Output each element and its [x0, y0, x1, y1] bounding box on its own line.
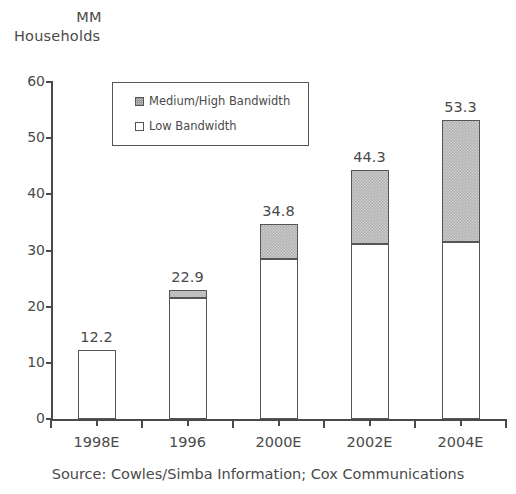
bar-segment-medium-high-bandwidth[interactable]: [351, 170, 389, 244]
bar-2000E[interactable]: [260, 224, 298, 419]
x-axis-major-tick: [323, 419, 325, 428]
bar-segment-low-bandwidth[interactable]: [442, 242, 480, 419]
bar-segment-medium-high-bandwidth[interactable]: [442, 120, 480, 242]
bar-2004E[interactable]: [442, 120, 480, 419]
x-axis-tick-label: 1996: [169, 434, 206, 450]
x-axis-major-tick: [505, 419, 507, 428]
bar-2002E[interactable]: [351, 170, 389, 419]
x-axis-minor-tick: [369, 421, 371, 426]
legend: Medium/High Bandwidth Low Bandwidth: [112, 82, 309, 146]
legend-item-medium-high-bandwidth[interactable]: Medium/High Bandwidth: [135, 94, 290, 108]
legend-item-label: Medium/High Bandwidth: [149, 94, 290, 108]
bar-value-label: 12.2: [80, 329, 112, 345]
y-axis-tick-labels: 0102030405060: [11, 82, 45, 419]
y-axis-tick: [46, 306, 53, 308]
y-axis-tick: [46, 362, 53, 364]
bar-segment-medium-high-bandwidth[interactable]: [260, 224, 298, 259]
x-axis-minor-tick: [96, 421, 98, 426]
white-square-icon: [135, 122, 144, 131]
y-axis-tick-label: 50: [15, 129, 45, 145]
x-axis-tick-label: 2002E: [346, 434, 392, 450]
source-note: Source: Cowles/Simba Information; Cox Co…: [0, 466, 516, 482]
y-axis-tick-label: 40: [15, 185, 45, 201]
gray-hatched-square-icon: [135, 97, 144, 106]
y-axis-title-line2: Households: [14, 27, 164, 46]
y-axis-tick-label: 20: [15, 298, 45, 314]
bar-value-label: 44.3: [353, 149, 385, 165]
legend-item-low-bandwidth[interactable]: Low Bandwidth: [135, 119, 237, 133]
x-axis-major-tick: [232, 419, 234, 428]
bar-1996[interactable]: [169, 290, 207, 419]
x-axis-tick-label: 1998E: [73, 434, 119, 450]
y-axis-tick: [46, 193, 53, 195]
bar-value-label: 34.8: [262, 203, 294, 219]
y-axis-title-line1: MM: [14, 8, 164, 27]
x-axis-major-tick: [50, 419, 52, 428]
y-axis-title: MM Households: [14, 8, 164, 46]
x-axis-tick-label: 2004E: [437, 434, 483, 450]
bar-segment-low-bandwidth[interactable]: [78, 350, 116, 419]
bar-segment-medium-high-bandwidth[interactable]: [169, 290, 207, 298]
bar-value-label: 53.3: [444, 99, 476, 115]
x-axis-major-tick: [414, 419, 416, 428]
x-axis-minor-tick: [278, 421, 280, 426]
y-axis-tick: [46, 137, 53, 139]
bar-segment-low-bandwidth[interactable]: [260, 259, 298, 419]
bar-segment-low-bandwidth[interactable]: [351, 244, 389, 419]
y-axis-tick: [46, 250, 53, 252]
x-axis-minor-tick: [187, 421, 189, 426]
bar-value-label: 22.9: [171, 269, 203, 285]
y-axis-tick-label: 60: [15, 73, 45, 89]
y-axis-tick: [46, 81, 53, 83]
bar-1998E[interactable]: [78, 350, 116, 419]
x-axis-major-tick: [141, 419, 143, 428]
bar-segment-low-bandwidth[interactable]: [169, 298, 207, 419]
y-axis-tick-label: 10: [15, 354, 45, 370]
legend-item-label: Low Bandwidth: [149, 119, 237, 133]
x-axis-minor-tick: [460, 421, 462, 426]
x-axis-tick-label: 2000E: [255, 434, 301, 450]
y-axis-tick-label: 0: [15, 410, 45, 426]
y-axis-tick-label: 30: [15, 242, 45, 258]
